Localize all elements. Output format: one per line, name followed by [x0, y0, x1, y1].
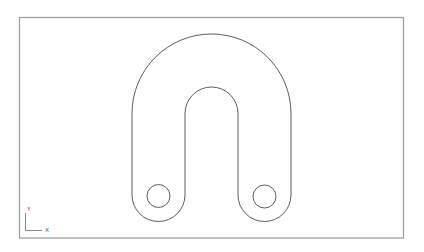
ucs-y-label: Y	[26, 205, 31, 212]
ucs-x-label: X	[45, 226, 49, 233]
drawing-canvas[interactable]: Y X	[0, 0, 424, 252]
viewport-frame	[20, 18, 404, 239]
